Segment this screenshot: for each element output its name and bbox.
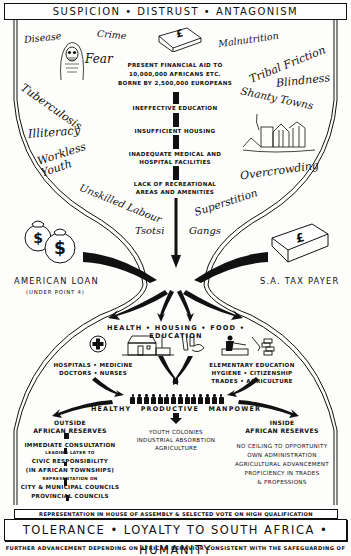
- education-line-3: TRADES • AGRICULTURE: [207, 377, 297, 385]
- person-icon: [158, 394, 163, 404]
- outside-step-1: IMMEDIATE CONSULTATION: [10, 441, 130, 449]
- svg-text:$: $: [33, 230, 43, 246]
- inside-item-3: AGRICULTURAL ADVANCEMENT: [232, 460, 332, 468]
- funding-line-2: 10,000,000 AFRICANS ETC.: [110, 70, 240, 78]
- center-outcome-3: AGRICULTURE: [126, 444, 226, 452]
- person-icon: [219, 394, 224, 404]
- inside-title-1: INSIDE: [232, 419, 332, 427]
- deficiency-medical-1: INADEQUATE MEDICAL AND: [110, 150, 240, 158]
- funding-line-1: PRESENT FINANCIAL AID TO: [110, 61, 240, 69]
- manpower-title: HEALTHY PRODUCTIVE MANPOWER: [85, 405, 267, 413]
- funding-line-3: BORNE BY 2,500,000 EUROPEANS: [110, 79, 240, 87]
- health-line-2: DOCTORS • NURSES: [48, 369, 138, 377]
- representation-box: REPRESENTATION IN HOUSE OF ASSEMBLY & SE…: [14, 509, 338, 519]
- outside-title-2: AFRICAN RESERVES: [20, 427, 120, 435]
- outside-step-4: (IN AFRICAN TOWNSHIPS): [10, 466, 130, 474]
- deficiency-recreation-2: AREAS AND AMENITIES: [110, 188, 240, 196]
- person-icon: [178, 394, 183, 404]
- outside-step-6: CITY & MUNICIPAL COUNCILS: [10, 483, 130, 491]
- svg-text:$: $: [54, 238, 66, 258]
- deficiency-housing: INSUFFICIENT HOUSING: [110, 127, 240, 135]
- person-icon: [164, 394, 169, 404]
- outside-step-2: LEADING LATER TO: [10, 449, 130, 457]
- problem-tsotsi: Tsotsi: [135, 225, 164, 236]
- american-loan-subtitle: (UNDER POINT 4): [26, 289, 85, 295]
- person-icon: [205, 394, 210, 404]
- person-icon: [137, 394, 142, 404]
- dollar-money-bags-icon: $ $: [20, 212, 86, 272]
- inside-item-1: NO CEILING TO OPPORTUNITY: [232, 442, 332, 450]
- outside-step-7: PROVINCIAL COUNCILS: [10, 492, 130, 500]
- inside-item-5: & PROFESSIONS: [232, 478, 332, 486]
- problem-fear: Fear: [85, 52, 113, 66]
- health-line-1: HOSPITALS • MEDICINE: [48, 361, 138, 369]
- person-icon: [144, 394, 149, 404]
- person-icon: [212, 394, 217, 404]
- top-banner: SUSPICION • DISTRUST • ANTAGONISM: [4, 3, 347, 20]
- outside-title-1: OUTSIDE: [20, 419, 120, 427]
- education-worker-icon: [220, 333, 280, 357]
- pound-money-box-icon-right: £: [270, 222, 330, 266]
- shanty-town-illustration: [243, 112, 318, 157]
- sa-tax-payer-label: S.A. TAX PAYER: [260, 276, 340, 286]
- person-icon: [171, 394, 176, 404]
- red-cross-icon: [89, 335, 107, 353]
- skull-icon: [55, 38, 87, 82]
- outside-step-5: REPRESENTATION ON: [10, 475, 130, 483]
- person-icon: [191, 394, 196, 404]
- person-icon: [151, 394, 156, 404]
- food-icon: [178, 332, 206, 354]
- deficiency-medical-2: HOSPITAL FACILITIES: [110, 158, 240, 166]
- bottom-banner: TOLERANCE • LOYALTY TO SOUTH AFRICA • HU…: [4, 519, 347, 541]
- house-icon: [122, 333, 174, 357]
- person-icon: [130, 394, 135, 404]
- center-outcome-2: INDUSTRIAL ABSORBTION: [126, 436, 226, 444]
- deficiency-education: INEFFECTIVE EDUCATION: [110, 104, 240, 112]
- inside-title-2: AFRICAN RESERVES: [232, 427, 332, 435]
- inside-item-4: PROFICIENCY IN TRADES: [232, 469, 332, 477]
- footer-text: FURTHER ADVANCEMENT DEPENDING ON AFRICAN…: [2, 545, 349, 551]
- education-line-1: ELEMENTARY EDUCATION: [207, 361, 297, 369]
- american-loan-label: AMERICAN LOAN: [14, 276, 99, 286]
- person-icon: [185, 394, 190, 404]
- person-icon: [198, 394, 203, 404]
- inside-item-2: OWN ADMINISTRATION: [232, 451, 332, 459]
- center-outcome-1: YOUTH COLONIES: [126, 428, 226, 436]
- education-line-2: HYGIENE • CITIZENSHIP: [207, 369, 297, 377]
- deficiency-recreation-1: LACK OF RECREATIONAL: [110, 180, 240, 188]
- problem-gangs: Gangs: [189, 225, 221, 236]
- outside-step-3: CIVIC RESPONSIBILITY: [10, 457, 130, 465]
